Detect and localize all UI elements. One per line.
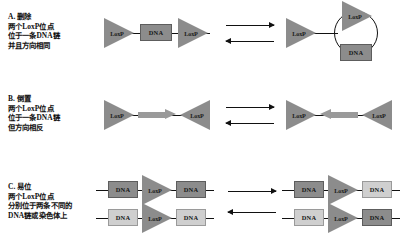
dna-segment-box: DNA <box>294 209 324 226</box>
dna-segment-box: DNA <box>108 181 138 198</box>
dna-segment-box: DNA <box>176 181 206 198</box>
arrow-shaft <box>226 123 274 124</box>
loxp-site-left: LoxP <box>104 100 134 130</box>
circular-dna-segment-box: DNA <box>340 44 372 61</box>
dna-segment-box: DNA <box>140 24 172 41</box>
dna-segment-box: DNA <box>108 209 138 226</box>
arrow-head-icon <box>271 188 277 194</box>
loxp-site-product: LoxP <box>286 18 316 48</box>
loxp-label: LoxP <box>104 30 130 37</box>
loxp-site-product-right: LoxP <box>362 100 392 130</box>
inverted-segment-arrow <box>320 109 358 120</box>
arrow-shaft <box>226 41 274 42</box>
loxp-label: LoxP <box>328 215 354 222</box>
arrow-shaft <box>228 212 276 213</box>
loxp-site-product2: LoxP <box>328 203 358 233</box>
loxp-label: LoxP <box>366 112 392 119</box>
arrow-head-icon <box>225 120 231 126</box>
arrow-shaft <box>228 191 276 192</box>
loxp-label: LoxP <box>342 13 368 20</box>
invertible-segment-arrow <box>138 109 176 120</box>
loxp-label: LoxP <box>286 30 312 37</box>
loxp-site-strand1: LoxP <box>142 175 172 205</box>
loxp-site-product-left: LoxP <box>286 100 316 130</box>
panel-b-diagram: LoxP LoxP LoxP <box>0 82 407 160</box>
panel-inversion: B. 倒置 两个LoxP位点 位于一条DNA链 但方向相反 LoxP LoxP <box>0 82 407 160</box>
arrow-shaft <box>226 25 274 26</box>
dna-segment-box: DNA <box>362 209 392 226</box>
panel-c-diagram: DNA LoxP DNA DNA LoxP DNA DNA LoxP <box>0 160 407 248</box>
loxp-label: LoxP <box>328 187 354 194</box>
dna-segment-box: DNA <box>176 209 206 226</box>
arrow-head-icon <box>269 22 275 28</box>
loxp-site-strand2: LoxP <box>142 203 172 233</box>
loxp-label: LoxP <box>184 112 210 119</box>
arrow-head-icon <box>165 109 176 119</box>
arrow-shaft <box>138 112 166 118</box>
arrow-head-icon <box>225 38 231 44</box>
loxp-site-circle: LoxP <box>342 1 372 31</box>
loxp-site-product1: LoxP <box>328 175 358 205</box>
arrow-head-icon <box>269 104 275 110</box>
loxp-label: LoxP <box>178 30 204 37</box>
loxp-site-left: LoxP <box>104 18 134 48</box>
panel-deletion: A. 删除 两个LoxP位点 位于一条DNA链 并且方向相同 LoxP DNA … <box>0 0 407 82</box>
arrow-shaft <box>226 107 274 108</box>
loxp-site-right: LoxP <box>180 100 210 130</box>
arrow-shaft <box>330 112 358 118</box>
loxp-site-right: LoxP <box>178 18 208 48</box>
panel-translocation: C. 易位 两个LoxP位点 分别位于两条不同的 DNA链或染色体上 DNA L… <box>0 160 407 248</box>
arrow-head-icon <box>227 209 233 215</box>
loxp-label: LoxP <box>104 112 130 119</box>
loxp-label: LoxP <box>286 112 312 119</box>
panel-a-diagram: LoxP DNA LoxP LoxP LoxP DNA <box>0 0 407 82</box>
loxp-label: LoxP <box>142 187 168 194</box>
loxp-label: LoxP <box>142 215 168 222</box>
arrow-head-icon <box>320 109 331 119</box>
dna-segment-box: DNA <box>294 181 324 198</box>
dna-segment-box: DNA <box>362 181 392 198</box>
